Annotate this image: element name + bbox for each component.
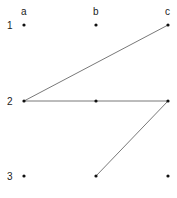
node-1b	[94, 23, 97, 26]
node-2a	[22, 99, 25, 102]
node-3c	[166, 174, 169, 177]
node-3a	[22, 174, 25, 177]
column-label-c: c	[165, 6, 170, 17]
node-2c	[166, 99, 169, 102]
row-label-2: 2	[7, 96, 13, 107]
row-label-3: 3	[7, 171, 13, 182]
node-1c	[166, 23, 169, 26]
node-2b	[94, 99, 97, 102]
column-label-b: b	[93, 6, 99, 17]
node-1a	[22, 23, 25, 26]
edge-2a-1c	[24, 25, 168, 101]
node-3b	[94, 174, 97, 177]
column-label-a: a	[21, 6, 27, 17]
edge-2c-3b	[96, 101, 168, 176]
row-label-1: 1	[7, 20, 13, 31]
grid-diagram: a b c 1 2 3	[0, 0, 177, 198]
